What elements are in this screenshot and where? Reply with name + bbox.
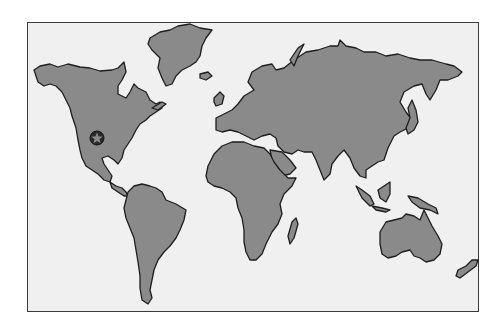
madagascar (288, 218, 298, 244)
star-in-circle-icon (90, 131, 104, 145)
british-isles (214, 92, 224, 106)
world-map (0, 0, 494, 328)
java (372, 206, 390, 212)
australia (380, 210, 442, 262)
iceland (200, 72, 212, 80)
borneo (378, 182, 390, 202)
north-america (34, 62, 162, 182)
new-zealand (456, 260, 478, 278)
central-america (110, 182, 128, 196)
sumatra (356, 186, 374, 206)
south-america (124, 184, 186, 304)
